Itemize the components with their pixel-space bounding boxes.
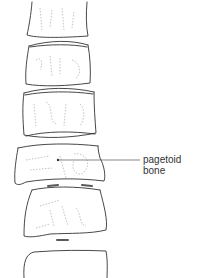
vertebra-4-pagetoid bbox=[15, 144, 105, 185]
pagetoid-bone-label: pagetoid bone bbox=[143, 154, 181, 176]
label-line-2: bone bbox=[143, 165, 181, 176]
vertebra-2 bbox=[26, 41, 91, 85]
vertebra-3 bbox=[23, 88, 96, 137]
vertebra-1 bbox=[27, 2, 88, 37]
spine-illustration bbox=[0, 0, 199, 278]
label-line-1: pagetoid bbox=[143, 154, 181, 165]
vertebra-6 bbox=[24, 250, 107, 278]
vertebra-5 bbox=[24, 187, 107, 237]
